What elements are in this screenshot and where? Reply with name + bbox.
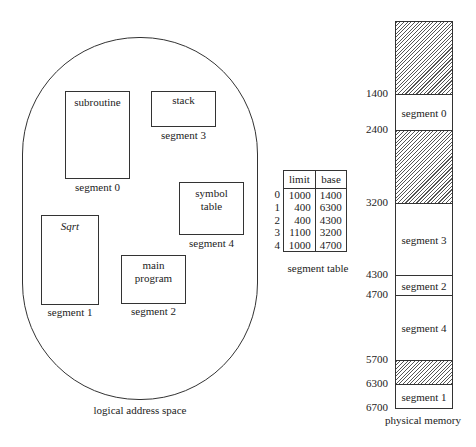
segment-limit: 400 <box>284 201 316 214</box>
memory-region-segment-2: segment 2 <box>396 276 452 296</box>
address-label: 4700 <box>352 288 388 300</box>
logical-address-space-caption: logical address space <box>22 404 258 416</box>
address-label: 6300 <box>352 377 388 389</box>
memory-region-segment-1: segment 1 <box>396 385 452 409</box>
segment-3-box: stack <box>151 91 216 127</box>
segment-4-content-line-1: symbol <box>180 187 243 200</box>
segment-table-row: 4 1000 4700 <box>273 239 346 252</box>
segment-base: 4300 <box>315 214 346 227</box>
segment-table: limit base 0 1000 1400 1 400 6300 2 400 … <box>273 170 347 252</box>
segment-0-label: segment 0 <box>65 181 130 193</box>
free-memory-region <box>396 361 452 385</box>
segment-table-row: 3 1100 3200 <box>273 226 346 239</box>
segment-limit: 1100 <box>284 226 316 239</box>
segment-table-row: 1 400 6300 <box>273 201 346 214</box>
segment-base: 3200 <box>315 226 346 239</box>
free-memory-region <box>396 22 452 95</box>
segment-limit: 1000 <box>284 239 316 252</box>
segment-4-content: symbol table <box>180 187 243 213</box>
memory-region-segment-3: segment 3 <box>396 204 452 276</box>
segment-limit: 1000 <box>284 188 316 201</box>
segment-2-content-line-1: main <box>122 259 185 272</box>
segment-index: 3 <box>273 226 284 239</box>
segment-table-row: 0 1000 1400 <box>273 188 346 201</box>
segment-1-content: Sqrt <box>42 220 98 233</box>
segment-table-row: 2 400 4300 <box>273 214 346 227</box>
segment-0-content: subroutine <box>66 96 129 109</box>
segment-4-label: segment 4 <box>179 237 244 249</box>
segment-0-box: subroutine <box>65 91 130 179</box>
segment-table-header-limit: limit <box>284 171 316 189</box>
segment-3-label: segment 3 <box>151 129 216 141</box>
segment-base: 4700 <box>315 239 346 252</box>
segment-limit: 400 <box>284 214 316 227</box>
segment-index: 0 <box>273 188 284 201</box>
segment-1-box: Sqrt <box>41 215 99 305</box>
segment-4-box: symbol table <box>179 182 244 235</box>
address-label: 2400 <box>352 123 388 135</box>
memory-region-segment-4: segment 4 <box>396 296 452 361</box>
segment-table-caption: segment table <box>283 262 353 274</box>
address-label: 5700 <box>352 353 388 365</box>
memory-region-segment-0: segment 0 <box>396 95 452 131</box>
segment-base: 6300 <box>315 201 346 214</box>
segment-2-content-line-2: program <box>122 272 185 285</box>
segment-4-content-line-2: table <box>180 200 243 213</box>
address-label: 6700 <box>352 401 388 413</box>
address-label: 1400 <box>352 87 388 99</box>
physical-memory-column: segment 0 segment 3 segment 2 segment 4 … <box>395 21 453 409</box>
segment-3-content: stack <box>152 94 215 107</box>
segment-2-content: main program <box>122 259 185 285</box>
address-label: 4300 <box>352 268 388 280</box>
free-memory-region <box>396 131 452 204</box>
segment-index: 2 <box>273 214 284 227</box>
segment-index: 1 <box>273 201 284 214</box>
physical-memory-caption: physical memory <box>378 414 468 426</box>
segment-index: 4 <box>273 239 284 252</box>
segment-base: 1400 <box>315 188 346 201</box>
segment-2-label: segment 2 <box>121 305 186 317</box>
segment-1-label: segment 1 <box>41 306 99 318</box>
segment-2-box: main program <box>121 255 186 304</box>
address-label: 3200 <box>352 196 388 208</box>
segment-table-header-base: base <box>315 171 346 189</box>
